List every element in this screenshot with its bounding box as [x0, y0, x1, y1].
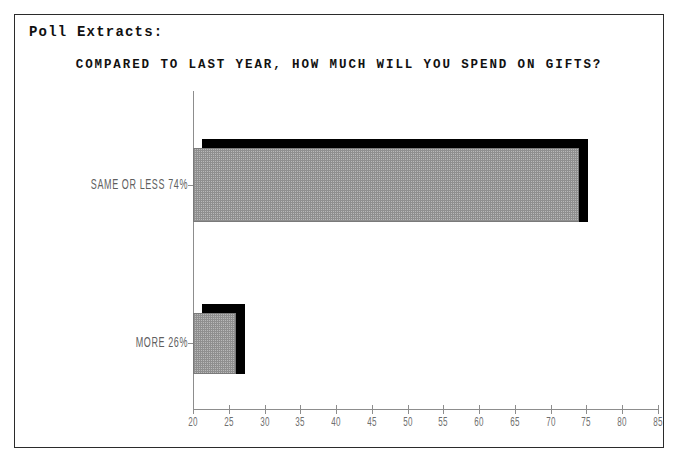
- x-tick: [551, 405, 552, 414]
- x-tick-label: 30: [255, 414, 274, 429]
- x-tick: [479, 405, 480, 414]
- bar-front-face: [193, 313, 236, 374]
- x-tick-label: 20: [184, 414, 203, 429]
- x-tick: [336, 405, 337, 414]
- x-axis-line: [193, 409, 658, 410]
- x-tick-label: 40: [327, 414, 346, 429]
- bar: [193, 139, 588, 222]
- x-tick: [300, 405, 301, 414]
- x-tick-label: 25: [219, 414, 238, 429]
- x-tick: [193, 405, 194, 414]
- x-tick: [229, 405, 230, 414]
- x-tick: [443, 405, 444, 414]
- x-tick-label: 80: [613, 414, 632, 429]
- x-tick-label: 50: [398, 414, 417, 429]
- x-tick: [372, 405, 373, 414]
- category-label: MORE 26%: [8, 333, 188, 350]
- bar-side-face: [579, 139, 588, 222]
- x-tick-label: 85: [649, 414, 668, 429]
- category-label: SAME OR LESS 74%: [8, 175, 188, 192]
- chart-frame: Poll Extracts: COMPARED TO LAST YEAR, HO…: [14, 14, 664, 448]
- bar-side-face: [236, 304, 245, 374]
- x-tick-label: 70: [541, 414, 560, 429]
- x-tick: [408, 405, 409, 414]
- plot-area: 2025303540455055606570758085 SAME OR LES…: [15, 15, 665, 449]
- bar: [193, 304, 245, 374]
- x-tick-label: 60: [470, 414, 489, 429]
- x-tick-label: 65: [506, 414, 525, 429]
- x-tick-label: 75: [577, 414, 596, 429]
- x-tick: [658, 405, 659, 414]
- bar-front-face: [193, 148, 579, 222]
- x-tick: [265, 405, 266, 414]
- x-tick: [586, 405, 587, 414]
- x-tick: [622, 405, 623, 414]
- x-tick-label: 55: [434, 414, 453, 429]
- x-tick-label: 35: [291, 414, 310, 429]
- bar-top-face: [202, 139, 588, 148]
- x-tick-label: 45: [363, 414, 382, 429]
- x-tick: [515, 405, 516, 414]
